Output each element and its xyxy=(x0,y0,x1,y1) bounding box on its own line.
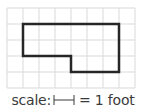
grid-lines xyxy=(7,8,135,88)
scale-bar-icon xyxy=(53,94,75,106)
scale-suffix: = 1 foot xyxy=(79,92,135,108)
scale-label: scale: = 1 foot xyxy=(0,90,146,110)
scale-prefix: scale: xyxy=(11,92,51,108)
grid-diagram xyxy=(0,0,146,90)
